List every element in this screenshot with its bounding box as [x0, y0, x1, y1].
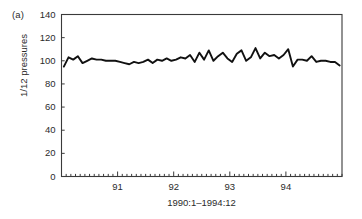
y-tick-label: 100: [28, 56, 56, 66]
y-tick-label: 0: [28, 172, 56, 182]
y-tick-label: 120: [28, 33, 56, 43]
tick-marks: [62, 15, 343, 177]
series-line-pressures: [64, 48, 340, 67]
y-tick-label: 140: [28, 10, 56, 20]
y-tick-label: 80: [28, 79, 56, 89]
y-tick-label: 40: [28, 125, 56, 135]
axis-frame: [62, 15, 343, 177]
x-tick-label: 93: [218, 182, 242, 192]
figure-panel-a: (a) 1/12 pressures 1990:1–1994:12 020406…: [0, 0, 362, 219]
y-tick-label: 20: [28, 148, 56, 158]
x-tick-label: 92: [162, 182, 186, 192]
x-tick-label: 91: [106, 182, 130, 192]
axes-frame: [62, 15, 343, 177]
x-tick-label: 94: [274, 182, 298, 192]
y-tick-label: 60: [28, 102, 56, 112]
data-series-line: [64, 48, 340, 67]
